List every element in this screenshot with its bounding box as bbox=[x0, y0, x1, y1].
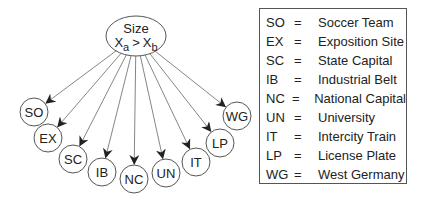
arrow-to-ex bbox=[58, 53, 121, 126]
arrow-to-un bbox=[140, 56, 162, 159]
legend-row-un: UN=University bbox=[266, 108, 406, 127]
legend-desc: Industrial Belt bbox=[318, 72, 397, 87]
node-label: EX bbox=[39, 131, 57, 146]
legend-row-so: SO=Soccer Team bbox=[266, 13, 406, 32]
legend-desc: Intercity Train bbox=[318, 129, 396, 144]
legend-row-it: IT=Intercity Train bbox=[266, 127, 406, 146]
legend-eq: = bbox=[294, 110, 318, 125]
legend-eq: = bbox=[294, 34, 318, 49]
node-nc: NC bbox=[120, 165, 148, 193]
node-it: IT bbox=[182, 148, 210, 176]
legend-eq: = bbox=[294, 167, 318, 182]
legend-eq: = bbox=[294, 53, 318, 68]
node-label: SC bbox=[64, 152, 82, 167]
legend-desc: West Germany bbox=[318, 167, 404, 182]
node-label: IB bbox=[96, 165, 108, 180]
node-label: UN bbox=[157, 166, 176, 181]
legend-desc: License Plate bbox=[318, 148, 396, 163]
root-title: Size bbox=[123, 21, 148, 36]
legend-row-ib: IB=Industrial Belt bbox=[266, 70, 406, 89]
legend-eq: = bbox=[294, 72, 318, 87]
legend-abbr: IB bbox=[266, 72, 294, 87]
legend-row-wg: WG=West Germany bbox=[266, 165, 406, 184]
legend-row-sc: SC=State Capital bbox=[266, 51, 406, 70]
legend-abbr: SC bbox=[266, 53, 294, 68]
arrow-to-sc bbox=[80, 55, 126, 146]
node-sc: SC bbox=[59, 145, 87, 173]
legend-row-lp: LP=License Plate bbox=[266, 146, 406, 165]
node-label: WG bbox=[226, 109, 248, 124]
legend-abbr: EX bbox=[266, 34, 294, 49]
legend-abbr: NC bbox=[266, 91, 292, 106]
legend-eq: = bbox=[294, 15, 318, 30]
legend-desc: Exposition Site bbox=[318, 34, 404, 49]
legend-eq: = bbox=[294, 129, 318, 144]
node-ex: EX bbox=[34, 124, 62, 152]
node-wg: WG bbox=[223, 102, 251, 130]
arrow-to-lp bbox=[150, 54, 211, 131]
legend-row-nc: NC=National Capital bbox=[266, 89, 406, 108]
arrow-to-nc bbox=[134, 56, 136, 164]
node-ib: IB bbox=[88, 158, 116, 186]
node-label: NC bbox=[125, 172, 144, 187]
legend-row-ex: EX=Exposition Site bbox=[266, 32, 406, 51]
legend-abbr: UN bbox=[266, 110, 294, 125]
node-so: SO bbox=[20, 98, 48, 126]
arrow-to-it bbox=[145, 55, 189, 148]
node-lp: LP bbox=[206, 129, 234, 157]
root-node-size: Size Xa>Xb bbox=[106, 16, 166, 56]
legend-eq: = bbox=[294, 148, 318, 163]
child-nodes: SOEXSCIBNCUNITLPWG bbox=[20, 98, 251, 193]
legend-desc: State Capital bbox=[318, 53, 392, 68]
legend-desc: Soccer Team bbox=[318, 15, 394, 30]
legend-abbr: LP bbox=[266, 148, 294, 163]
legend-abbr: WG bbox=[266, 167, 294, 182]
node-label: IT bbox=[190, 155, 202, 170]
legend-eq: = bbox=[292, 91, 314, 106]
legend-desc: National Capital bbox=[314, 91, 406, 106]
node-label: SO bbox=[25, 105, 44, 120]
node-label: LP bbox=[212, 136, 228, 151]
legend-abbr: SO bbox=[266, 15, 294, 30]
legend-abbr: IT bbox=[266, 129, 294, 144]
node-un: UN bbox=[152, 159, 180, 187]
legend-desc: University bbox=[318, 110, 375, 125]
legend: SO=Soccer TeamEX=Exposition SiteSC=State… bbox=[259, 8, 407, 184]
tree-diagram: Size Xa>Xb SOEXSCIBNCUNITLPWG bbox=[0, 0, 258, 201]
